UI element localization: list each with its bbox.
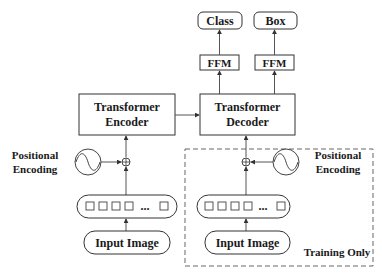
positional-encoding-left-line2: Encoding [13,163,58,175]
positional-encoding-left-line1: Positional [12,149,58,161]
class-output-node: Class [198,12,242,29]
encoder-label-line1: Transformer [94,100,160,114]
positional-encoding-right-line2: Encoding [316,163,361,175]
training-only-label: Training Only [304,246,371,258]
sine-wave-icon [75,149,101,175]
class-output-label: Class [206,14,234,28]
transformer-encoder-node: Transformer Encoder [79,94,175,135]
decoder-label-line1: Transformer [215,100,281,114]
box-output-label: Box [265,14,285,28]
input-image-left-label: Input Image [95,236,159,250]
encoder-label-line2: Encoder [105,115,149,129]
box-output-node: Box [254,12,297,29]
token-sequence-left: ... [77,195,177,218]
add-operator-right [242,158,250,166]
positional-encoding-right-line1: Positional [315,149,361,161]
transformer-decoder-node: Transformer Decoder [200,94,295,135]
ffm-class-head: FFM [200,55,239,70]
add-operator-left [122,158,130,166]
token-ellipsis-left: ... [141,199,150,213]
sine-wave-icon-right [273,149,299,175]
input-image-left-node: Input Image [84,231,170,254]
ffm-class-label: FFM [208,57,232,69]
architecture-diagram: Training Only Class Box FFM FFM Transfor… [0,0,382,274]
ffm-box-label: FFM [263,57,287,69]
input-image-right-node: Input Image [205,231,290,254]
token-sequence-right: ... [197,195,290,218]
ffm-box-head: FFM [255,55,294,70]
token-ellipsis-right: ... [259,199,268,213]
decoder-label-line2: Decoder [226,115,269,129]
input-image-right-label: Input Image [216,236,280,250]
